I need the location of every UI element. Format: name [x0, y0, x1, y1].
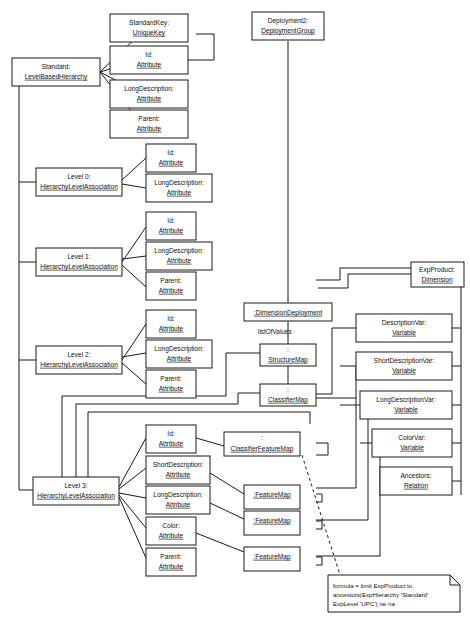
edge-longdescriptionvar-featuremap2: [316, 405, 368, 520]
node-std-parent[interactable]: Parent: Attribute: [110, 110, 188, 138]
node-classifier-map-colon: :: [287, 386, 289, 393]
node-l0-id-line2: Attribute: [159, 159, 184, 166]
node-l3-id-line1: Id:: [167, 430, 174, 437]
node-std-longdesc-line2: Attribute: [137, 95, 162, 102]
node-l3-parent[interactable]: Parent: Attribute: [146, 548, 196, 576]
node-l2-longdesc[interactable]: LongDescription: Attribute: [146, 340, 212, 368]
node-l3-id[interactable]: Id: Attribute: [146, 425, 196, 453]
node-exp-product[interactable]: ExpProduct: Dimension: [411, 262, 464, 287]
node-std-parent-line2: Attribute: [137, 125, 162, 132]
node-std-id[interactable]: Id: Attribute: [110, 46, 188, 74]
edge-colorvar-featuremap3: [316, 443, 380, 556]
node-long-description-var[interactable]: LongDescriptionVar: Variable: [360, 391, 452, 419]
node-l3-shortdesc-line2: Attribute: [166, 471, 191, 478]
node-standard-key-line1: StandardKey:: [129, 19, 169, 27]
node-level0[interactable]: Level 0: HierarchyLevelAssociation: [36, 168, 122, 196]
node-description-var[interactable]: DescriptionVar: Variable: [356, 314, 452, 342]
edge-classifierfeaturemap-stub: [316, 443, 328, 455]
note-formula: formula = limit ExpProduct to ancestors(…: [328, 575, 460, 612]
node-l1-id[interactable]: Id: Attribute: [146, 212, 196, 240]
node-l1-parent-line1: Parent:: [160, 277, 181, 284]
node-standard-line1: Standard:: [42, 63, 71, 70]
node-l2-parent-line1: Parent:: [160, 375, 181, 382]
edge-l3shortdesc-featuremap1: [210, 473, 244, 494]
node-l2-id[interactable]: Id: Attribute: [146, 310, 196, 338]
node-l1-longdesc-line1: LongDescription:: [154, 247, 204, 255]
node-short-description-var[interactable]: ShortDescriptionVar: Variable: [356, 352, 452, 380]
node-l1-longdesc[interactable]: LongDescription: Attribute: [146, 242, 212, 270]
node-level1[interactable]: Level 1: HierarchyLevelAssociation: [36, 248, 122, 276]
edge-shortdescriptionvar-featuremap1: [316, 366, 356, 488]
edge-level3-longdescription: [119, 493, 146, 498]
node-standard-line2: LevelBasedHierarchy: [25, 73, 88, 81]
node-classifier-feature-map[interactable]: : ClassifierFeatureMap: [224, 432, 300, 456]
node-exp-product-line2: Dimension: [421, 276, 452, 283]
node-feature-map-1-label: :FeatureMap: [253, 491, 291, 499]
node-color-var[interactable]: ColorVar: Variable: [372, 429, 452, 457]
node-level2-line2: HierarchyLevelAssociation: [40, 361, 118, 369]
node-deployment2[interactable]: Deployment2: DeploymentGroup: [252, 12, 324, 40]
node-l0-id[interactable]: Id: Attribute: [146, 144, 196, 172]
node-short-description-var-line2: Variable: [392, 367, 416, 374]
node-level3-line1: Level 3:: [64, 482, 87, 489]
node-dimension-deployment[interactable]: :DimensionDeployment: [244, 303, 332, 321]
node-feature-map-2-label: :FeatureMap: [253, 517, 291, 525]
node-standard-key[interactable]: StandardKey: UniqueKey: [110, 14, 188, 42]
node-classifier-map[interactable]: : ClassifierMap: [260, 384, 316, 406]
node-l3-id-line2: Attribute: [159, 440, 184, 447]
node-l1-parent[interactable]: Parent: Attribute: [146, 272, 196, 300]
edge-level0-id: [122, 158, 146, 180]
node-level1-line1: Level 1:: [67, 253, 90, 260]
edge-label-listofvalues: listOfValues: [258, 328, 292, 335]
edge-standardkey-id: [188, 34, 214, 60]
edge-featuremap2-stub: [316, 521, 322, 529]
node-level3-line2: HierarchyLevelAssociation: [37, 492, 115, 500]
node-deployment2-line1: Deployment2:: [268, 17, 309, 25]
node-l0-longdesc-line1: LongDescription:: [154, 179, 204, 187]
edge-level0-longdescription: [122, 184, 146, 188]
node-l3-shortdesc[interactable]: ShortDescription: Attribute: [146, 456, 210, 484]
node-level0-line1: Level 0:: [67, 173, 90, 180]
node-standard-key-line2: UniqueKey: [133, 29, 166, 37]
node-description-var-line1: DescriptionVar:: [382, 319, 427, 327]
node-structure-map-label: StructureMap: [268, 356, 308, 364]
node-standard[interactable]: Standard: LevelBasedHierarchy: [12, 58, 100, 86]
node-color-var-line2: Variable: [400, 444, 424, 451]
edge-l3color-featuremap3: [196, 533, 244, 552]
node-l3-longdesc[interactable]: LongDescription: Attribute: [146, 486, 210, 514]
edge-expproduct-structuremap-route: [318, 274, 411, 288]
node-std-longdesc[interactable]: LongDescription: Attribute: [110, 80, 188, 108]
diagram-svg: Standard: LevelBasedHierarchy StandardKe…: [0, 0, 470, 622]
node-l0-longdesc[interactable]: LongDescription: Attribute: [146, 174, 212, 202]
node-level3[interactable]: Level 3: HierarchyLevelAssociation: [33, 477, 119, 505]
node-l3-color[interactable]: Color: Attribute: [146, 517, 196, 545]
node-classifier-feature-map-label: ClassifierFeatureMap: [231, 445, 294, 453]
node-ancestors[interactable]: Ancestors: Relation: [380, 467, 452, 495]
node-long-description-var-line2: Variable: [394, 406, 418, 413]
node-description-var-line2: Variable: [392, 329, 416, 336]
node-short-description-var-line1: ShortDescriptionVar:: [374, 357, 435, 365]
node-std-longdesc-line1: LongDescription:: [124, 85, 174, 93]
node-feature-map-3-label: :FeatureMap: [253, 553, 291, 561]
node-feature-map-1[interactable]: :FeatureMap: [244, 485, 300, 509]
node-l3-longdesc-line2: Attribute: [166, 501, 191, 508]
node-level2[interactable]: Level 2: HierarchyLevelAssociation: [36, 346, 122, 374]
node-l3-longdesc-line1: LongDescription:: [153, 491, 203, 499]
node-l0-id-line1: Id:: [167, 149, 174, 156]
node-structure-map[interactable]: : StructureMap: [260, 344, 316, 366]
node-structure-map-colon: :: [287, 346, 289, 353]
node-level0-line2: HierarchyLevelAssociation: [40, 183, 118, 191]
node-feature-map-2[interactable]: :FeatureMap: [244, 511, 300, 535]
edge-level3-id: [119, 438, 146, 487]
edge-level3-color: [119, 495, 146, 528]
edge-level2-parent: [122, 363, 146, 384]
node-l2-parent[interactable]: Parent: Attribute: [146, 370, 196, 398]
node-l1-parent-line2: Attribute: [159, 287, 184, 294]
edge-level3-shortdescription: [119, 468, 146, 489]
edge-level1-parent: [122, 265, 146, 287]
node-ancestors-line1: Ancestors:: [400, 472, 431, 479]
node-l3-parent-line2: Attribute: [159, 563, 184, 570]
node-feature-map-3[interactable]: :FeatureMap: [244, 547, 300, 571]
node-l3-shortdesc-line1: ShortDescription:: [153, 461, 204, 469]
node-std-parent-line1: Parent:: [138, 115, 159, 122]
